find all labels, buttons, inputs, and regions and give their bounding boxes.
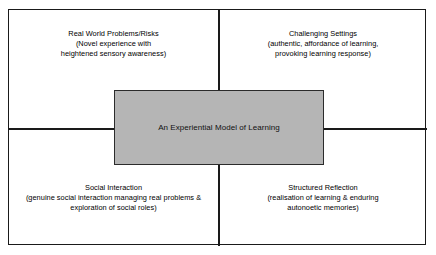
quadrant-bottom-left-description-line-2: exploration of social roles) (70, 203, 156, 213)
quadrant-top-right-description-line-1: (authentic, affordance of learning, (268, 39, 379, 49)
quadrant-top-left-description-line-1: (Novel experience with (76, 39, 151, 49)
quadrant-top-right-heading: Challenging Settings (289, 29, 357, 39)
quadrant-top-left-description-line-2: heightened sensory awareness) (61, 49, 166, 59)
center-model-label: An Experiential Model of Learning (158, 123, 280, 133)
quadrant-bottom-right-description-line-1: (realisation of learning & enduring (267, 193, 378, 203)
quadrant-bottom-right-description-line-2: autonoetic memories) (287, 203, 358, 213)
quadrant-bottom-left-description-line-1: (genuine social interaction managing rea… (26, 193, 201, 203)
center-model-box: An Experiential Model of Learning (114, 90, 324, 165)
quadrant-bottom-left-heading: Social Interaction (85, 183, 142, 193)
quadrant-bottom-right-heading: Structured Reflection (288, 183, 357, 193)
quadrant-top-left-heading: Real World Problems/Risks (68, 29, 158, 39)
experiential-model-diagram: Real World Problems/Risks (Novel experie… (0, 0, 436, 255)
quadrant-top-right-description-line-2: provoking learning response) (275, 49, 371, 59)
